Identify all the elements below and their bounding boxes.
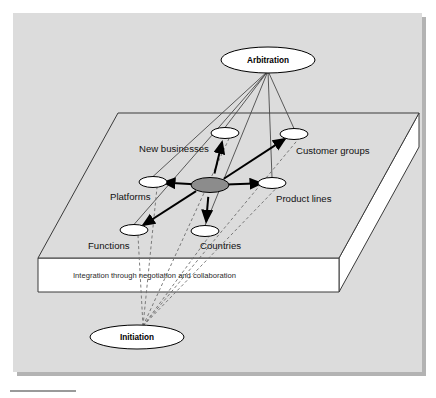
node-label-customer-groups: Customer groups <box>296 145 370 156</box>
node-ellipse-customer-groups <box>280 129 308 140</box>
node-label-platforms: Platforms <box>110 191 151 202</box>
node-label-countries: Countries <box>200 240 241 251</box>
slab-caption: Integration through negotiation and coll… <box>73 271 236 280</box>
node-ellipse-product-lines <box>258 178 286 189</box>
arbitration-node: Arbitration <box>221 47 315 73</box>
hub-arrow-product-lines <box>226 183 261 184</box>
central-hub <box>191 178 229 193</box>
node-label-new-businesses: New businesses <box>139 143 209 154</box>
node-ellipse-functions <box>120 225 148 236</box>
node-ellipse-platforms <box>139 177 167 188</box>
initiation-node: Initiation <box>90 325 184 349</box>
bottom-rule <box>10 390 76 392</box>
node-label-functions: Functions <box>88 240 130 251</box>
arbitration-label: Arbitration <box>247 56 289 65</box>
initiation-label: Initiation <box>120 333 154 342</box>
node-ellipse-countries <box>191 226 219 237</box>
figure-root: New businessesCustomer groupsPlatformsPr… <box>0 0 436 398</box>
node-label-product-lines: Product lines <box>276 193 332 204</box>
organization-diagram: New businessesCustomer groupsPlatformsPr… <box>0 0 436 398</box>
node-ellipse-new-businesses <box>211 128 239 139</box>
